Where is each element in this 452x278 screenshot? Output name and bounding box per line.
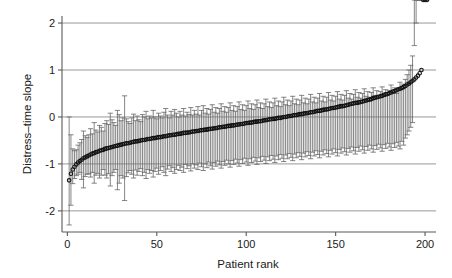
chart-figure: -2-1012050100150200 Patient rank Distres…: [0, 0, 452, 278]
y-tick-label-1: 1: [49, 64, 55, 76]
y-axis-title: Distress–time slope: [21, 74, 33, 174]
x-tick-label-0: 0: [64, 238, 70, 250]
x-axis-title: Patient rank: [217, 258, 279, 270]
distress-time-slope-chart: -2-1012050100150200 Patient rank Distres…: [0, 0, 452, 278]
x-tick-label-50: 50: [151, 238, 163, 250]
y-tick-label--2: -2: [45, 205, 55, 217]
y-tick-label-0: 0: [49, 111, 55, 123]
x-tick-label-150: 150: [326, 238, 344, 250]
x-tick-label-100: 100: [237, 238, 255, 250]
y-tick-label-2: 2: [49, 17, 55, 29]
y-tick-label--1: -1: [45, 158, 55, 170]
x-tick-label-200: 200: [416, 238, 434, 250]
